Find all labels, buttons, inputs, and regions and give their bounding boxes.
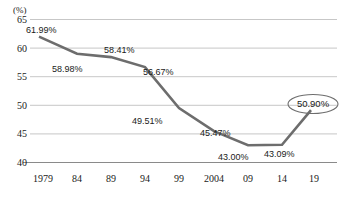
x-tick-label-84: 84 (72, 173, 82, 184)
y-tick-label-40: 40 (17, 157, 27, 168)
x-tick-label-1979: 1979 (33, 173, 53, 184)
data-label-1979: 61.99% (26, 25, 57, 35)
y-tick-label-50: 50 (17, 100, 27, 111)
line-chart: (%) 65 60 55 50 45 40 1979 84 89 94 99 2… (0, 0, 343, 199)
x-tick-label-2004: 2004 (204, 173, 224, 184)
x-axis-ticks: 1979 84 89 94 99 2004 09 14 19 (33, 173, 319, 184)
y-axis-ticks: 65 60 55 50 45 40 (17, 14, 27, 168)
data-label-99: 49.51% (132, 116, 163, 126)
data-label-89: 58.41% (104, 45, 135, 55)
y-tick-label-60: 60 (17, 43, 27, 54)
x-tick-label-09: 09 (243, 173, 253, 184)
data-label-94: 56.67% (143, 67, 174, 77)
data-label-14: 43.09% (264, 149, 295, 159)
y-tick-label-45: 45 (17, 128, 27, 139)
data-label-09: 43.00% (218, 152, 249, 162)
x-tick-label-14: 14 (277, 173, 287, 184)
x-tick-label-19: 19 (309, 173, 319, 184)
data-label-2004: 45.47% (200, 128, 231, 138)
x-tick-label-99: 99 (174, 173, 184, 184)
data-label-84: 58.98% (52, 64, 83, 74)
gridlines (23, 20, 337, 163)
chart-canvas: (%) 65 60 55 50 45 40 1979 84 89 94 99 2… (0, 0, 343, 199)
data-label-19-highlighted: 50.90% (297, 98, 330, 109)
y-tick-label-55: 55 (17, 71, 27, 82)
data-series-line (39, 37, 311, 146)
x-tick-label-94: 94 (140, 173, 150, 184)
x-tick-label-89: 89 (106, 173, 116, 184)
y-tick-label-65: 65 (17, 14, 27, 25)
